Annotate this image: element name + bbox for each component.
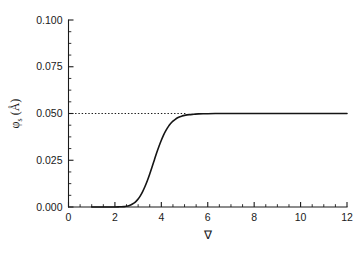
y-axis-title-text: φs (Å): [8, 99, 24, 129]
y-tick-label: 0.050: [36, 107, 62, 119]
x-tick-label: 6: [205, 211, 211, 223]
x-tick-label: 0: [66, 211, 72, 223]
x-tick-label: 10: [295, 211, 307, 223]
figure-background: [0, 0, 363, 257]
y-axis-title-unit: (Å): [8, 99, 22, 119]
chart-figure: 0.0000.0250.0500.0750.100 024681012 φs (…: [0, 0, 363, 257]
y-tick-label: 0.000: [36, 201, 62, 213]
y-tick-label: 0.025: [36, 154, 62, 166]
plot-canvas: 0.0000.0250.0500.0750.100 024681012 φs (…: [0, 0, 363, 257]
x-tick-label: 2: [112, 211, 118, 223]
y-tick-label: 0.100: [36, 14, 62, 26]
y-tick-label: 0.075: [36, 60, 62, 72]
x-tick-label: 12: [341, 211, 353, 223]
x-axis-title: ∇: [203, 228, 213, 242]
y-axis-title: φs (Å): [8, 99, 24, 129]
x-tick-label: 4: [158, 211, 164, 223]
x-tick-label: 8: [251, 211, 257, 223]
